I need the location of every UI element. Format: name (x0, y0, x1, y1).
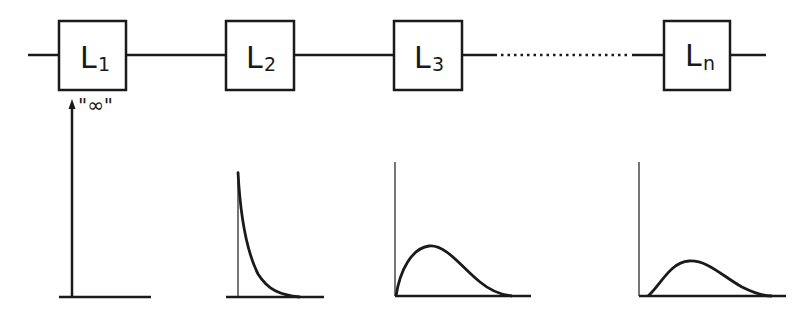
block-l1-subscript: 1 (98, 53, 110, 75)
block-l3-letter: L (414, 40, 431, 75)
infinity-label: "∞" (78, 93, 113, 117)
block-l2-letter: L (246, 40, 263, 75)
block-l3: L 3 (394, 21, 462, 90)
plot-ln-hump (639, 162, 786, 296)
plot-l2-curve (238, 172, 300, 297)
block-l3-subscript: 3 (432, 53, 444, 75)
plot-ln-curve (648, 261, 772, 296)
block-l1-letter: L (80, 40, 97, 75)
plot-l1-impulse: "∞" (59, 93, 151, 297)
block-ln-subscript: n (703, 52, 715, 74)
cascade-diagram: L 1 L 2 L 3 L n "∞" (0, 0, 812, 319)
plot-l2-decay (226, 171, 324, 297)
plot-l3-hump (395, 162, 531, 296)
block-ln-letter: L (685, 38, 702, 73)
block-l2: L 2 (226, 21, 294, 90)
arrowhead-icon (69, 99, 76, 109)
block-ln: L n (664, 21, 730, 90)
block-l1: L 1 (59, 21, 126, 90)
plot-l3-curve (396, 246, 512, 296)
block-l2-subscript: 2 (264, 53, 276, 75)
